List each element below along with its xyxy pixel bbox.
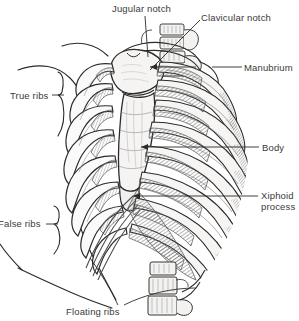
label-body: Body [262, 142, 284, 153]
label-false-ribs: False ribs [0, 218, 41, 229]
label-jugular-notch: Jugular notch [112, 3, 171, 14]
label-floating-ribs: Floating ribs [66, 306, 120, 317]
thoracic-cage-illustration [0, 0, 299, 321]
label-xiphoid-process: Xiphoid process [261, 190, 299, 212]
label-manubrium: Manubrium [244, 62, 293, 73]
label-clavicular-notch: Clavicular notch [201, 12, 271, 23]
anatomy-figure: Jugular notch Clavicular notch Manubrium… [0, 0, 299, 321]
label-true-ribs: True ribs [10, 90, 48, 101]
